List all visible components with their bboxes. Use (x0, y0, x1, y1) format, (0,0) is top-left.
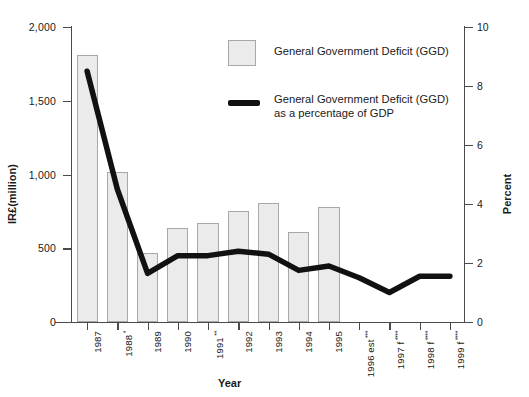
x-axis-tick (389, 323, 390, 330)
legend-line-label-row1: General Government Deficit (GGD) (274, 92, 449, 106)
bar (258, 203, 279, 322)
x-axis-tick (329, 323, 330, 330)
x-axis-tick-label: 1988 * (122, 331, 134, 357)
legend-bar-label: General Government Deficit (GGD) (274, 45, 449, 57)
x-axis-tick-label: 1989 (152, 331, 163, 353)
x-axis-tick-label: 1992 (243, 331, 254, 353)
x-axis-tick (178, 323, 179, 330)
y-axis-right-tick-label: 2 (477, 257, 505, 269)
y-axis-right-tick (465, 145, 473, 146)
x-axis-tick-label: 1998 f **** (424, 331, 436, 369)
x-axis-tick (117, 323, 118, 330)
y-axis-right-tick-label: 0 (477, 316, 505, 328)
x-axis-tick (269, 323, 270, 330)
y-axis-right-line (464, 26, 465, 323)
x-axis-tick (208, 323, 209, 330)
y-axis-left-tick-label: 0 (0, 316, 56, 328)
y-axis-left-tick-label: 2,000 (0, 21, 56, 33)
y-axis-left-tick (63, 248, 71, 249)
y-axis-right-tick (465, 27, 473, 28)
x-axis-title: Year (218, 377, 241, 389)
y-axis-left-tick (63, 322, 71, 323)
x-axis-tick-label: 1991 ** (213, 331, 225, 359)
legend-line-swatch (228, 100, 260, 106)
x-axis-tick-label: 1995 (333, 331, 344, 353)
bar (318, 207, 339, 322)
x-axis-tick (450, 323, 451, 330)
x-axis-tick-label: 1997 f **** (394, 331, 406, 369)
bar (167, 228, 188, 322)
y-axis-left-tick (63, 101, 71, 102)
x-axis-tick (87, 323, 88, 330)
y-axis-left-line (71, 26, 72, 323)
bar (288, 232, 309, 322)
bar (77, 55, 98, 322)
bar (137, 253, 158, 322)
x-axis-tick (420, 323, 421, 330)
bar (197, 223, 218, 322)
x-axis-tick-label: 1999 f **** (454, 331, 466, 369)
x-axis-tick (359, 323, 360, 330)
x-axis-tick-label: 1990 (182, 331, 193, 353)
chart-container: 05001,0001,5002,000 0246810 19871988 *19… (0, 0, 529, 397)
y-axis-left-tick-label: 1,500 (0, 95, 56, 107)
y-axis-right-tick-label: 6 (477, 139, 505, 151)
x-axis-tick-label: 1993 (273, 331, 284, 353)
y-axis-left-tick (63, 175, 71, 176)
y-axis-left-tick (63, 27, 71, 28)
x-axis-tick-label: 1996 est *** (364, 331, 376, 377)
bar (107, 172, 128, 322)
legend-line-label-row2: as a percentage of GDP (274, 106, 449, 120)
legend-line-label: General Government Deficit (GGD) as a pe… (274, 92, 449, 120)
x-axis-tick-label: 1987 (92, 331, 103, 353)
x-axis-tick-label: 1994 (303, 331, 314, 353)
y-axis-right-tick-label: 10 (477, 21, 505, 33)
y-axis-right-tick (465, 322, 473, 323)
y-axis-right-tick-label: 8 (477, 80, 505, 92)
legend-bar-swatch (228, 40, 256, 66)
bar (228, 211, 249, 322)
x-axis-tick (299, 323, 300, 330)
y-axis-left-title: IR£(million) (6, 164, 18, 224)
x-axis-tick (148, 323, 149, 330)
y-axis-right-title: Percent (501, 174, 513, 214)
y-axis-right-tick (465, 204, 473, 205)
x-axis-tick (238, 323, 239, 330)
y-axis-right-tick (465, 86, 473, 87)
y-axis-right-tick (465, 263, 473, 264)
y-axis-left-tick-label: 500 (0, 242, 56, 254)
